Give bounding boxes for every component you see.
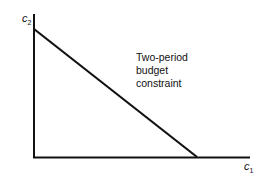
budget-constraint-annotation: Two-period budget constraint xyxy=(136,51,216,90)
annotation-line-3: constraint xyxy=(136,77,216,90)
budget-line xyxy=(34,29,197,157)
y-axis-label: c2 xyxy=(22,12,31,26)
x-axis-label: c1 xyxy=(244,160,253,174)
budget-constraint-diagram xyxy=(0,0,269,183)
annotation-line-2: budget xyxy=(136,64,216,77)
annotation-line-1: Two-period xyxy=(136,51,216,64)
